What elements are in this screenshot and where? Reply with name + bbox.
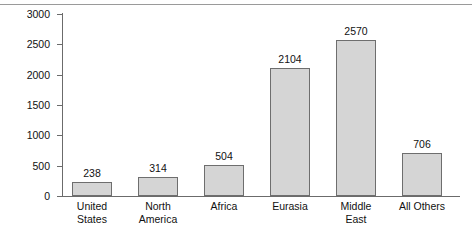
y-tick-label-0: 0	[14, 191, 50, 201]
x-axis-line	[62, 196, 460, 197]
bar-north-america	[138, 177, 178, 196]
bar-value-label-north-america: 314	[128, 163, 188, 174]
bar-all-others	[402, 153, 442, 196]
bar-united-states	[72, 182, 112, 196]
bar-value-label-all-others: 706	[392, 139, 452, 150]
x-label-all-others: All Others	[382, 200, 462, 213]
y-tick-label-2000: 2000	[14, 70, 50, 80]
y-tick-0	[57, 196, 62, 197]
bar-africa	[204, 165, 244, 196]
y-tick-label-500: 500	[14, 161, 50, 171]
bar-value-label-eurasia: 2104	[260, 54, 320, 65]
bar-middle-east	[336, 40, 376, 196]
bar-eurasia	[270, 68, 310, 196]
bar-value-label-africa: 504	[194, 151, 254, 162]
y-tick-label-2500: 2500	[14, 39, 50, 49]
bar-value-label-middle-east: 2570	[326, 26, 386, 37]
bar-chart-figure: Trillion Cubic Feet 05001000150020002500…	[0, 0, 472, 232]
top-divider-rule	[0, 4, 472, 5]
y-tick-label-1500: 1500	[14, 100, 50, 110]
bar-value-label-united-states: 238	[62, 168, 122, 179]
y-tick-label-1000: 1000	[14, 130, 50, 140]
y-tick-label-3000: 3000	[14, 9, 50, 19]
